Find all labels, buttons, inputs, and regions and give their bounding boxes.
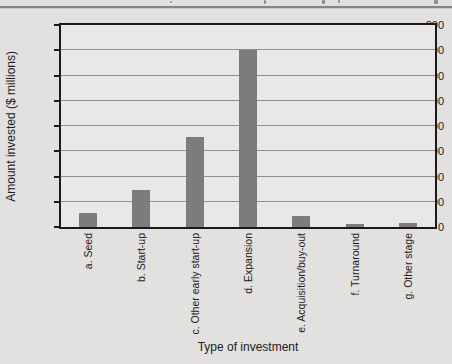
bar <box>239 50 257 227</box>
x-category-cell: e. Acquisition/buy-out <box>275 233 328 337</box>
x-category-label: e. Acquisition/buy-out <box>295 233 307 333</box>
bar <box>346 224 364 227</box>
cropped-text-remnant <box>338 0 340 3</box>
x-category-labels: a. Seedb. Start-upc. Other early start-u… <box>61 233 435 337</box>
y-axis-title: Amount invested ($ millions) <box>4 51 18 202</box>
cropped-text-remnant <box>322 0 325 4</box>
x-category-label: d. Expansion <box>242 233 254 294</box>
x-category-cell: f. Turnaround <box>328 233 381 337</box>
x-category-cell: a. Seed <box>61 233 114 337</box>
x-category-cell: b. Start-up <box>114 233 167 337</box>
figure: Amount invested ($ millions) 01002003004… <box>0 0 452 364</box>
x-category-label: a. Seed <box>82 233 94 269</box>
x-category-cell: d. Expansion <box>221 233 274 337</box>
bar <box>399 223 417 227</box>
cropped-text-remnant <box>264 0 266 4</box>
top-rule <box>0 6 452 9</box>
cropped-text-remnant <box>170 1 172 3</box>
bars <box>61 25 435 227</box>
x-category-label: c. Other early start-up <box>189 233 201 335</box>
x-category-label: g. Other stage <box>402 233 414 300</box>
bar <box>186 137 204 227</box>
cropped-text-remnant <box>434 0 438 4</box>
x-category-cell: c. Other early start-up <box>168 233 221 337</box>
x-category-cell: g. Other stage <box>382 233 435 337</box>
bar <box>79 213 97 227</box>
x-category-label: b. Start-up <box>135 233 147 282</box>
plot-area <box>59 23 437 229</box>
bar <box>132 190 150 227</box>
x-category-label: f. Turnaround <box>349 233 361 295</box>
x-axis-title: Type of investment <box>59 340 437 354</box>
bar <box>292 216 310 227</box>
y-axis-title-box: Amount invested ($ millions) <box>2 25 20 227</box>
